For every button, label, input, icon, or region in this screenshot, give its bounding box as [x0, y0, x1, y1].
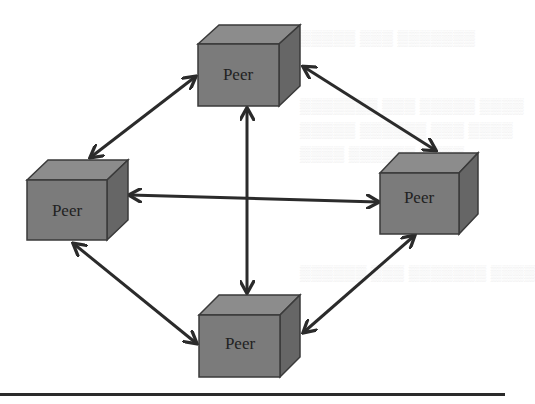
edge-right-bottom: [304, 236, 414, 332]
peer-node-right: Peer: [380, 153, 478, 234]
peer-label: Peer: [404, 188, 435, 207]
peer-node-bottom: Peer: [199, 295, 300, 377]
edge-top-left: [91, 77, 195, 157]
peer-label: Peer: [225, 334, 256, 353]
edge-left-bottom: [74, 244, 196, 343]
peer-node-left: Peer: [27, 160, 128, 240]
peer-node-top: Peer: [198, 25, 300, 106]
edge-top-right: [304, 67, 435, 150]
edge-left-right: [130, 195, 378, 202]
peer-label: Peer: [52, 201, 83, 220]
horizontal-rule: [0, 393, 505, 396]
peer-label: Peer: [223, 65, 254, 84]
